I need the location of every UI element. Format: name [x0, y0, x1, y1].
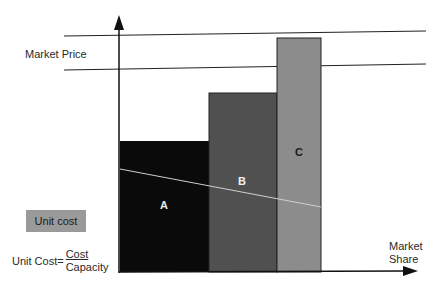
x-axis-label-line1: Market: [389, 240, 423, 253]
bar-a-label: A: [160, 199, 168, 211]
y-axis-arrow-icon: [114, 15, 124, 30]
bar-c-label: C: [295, 146, 303, 158]
unit-cost-formula: Unit Cost= Cost Capacity: [12, 248, 108, 274]
formula-fraction: Cost Capacity: [66, 248, 109, 274]
market-price-label: Market Price: [25, 48, 87, 60]
unit-cost-legend-box: Unit cost: [26, 210, 86, 232]
bar-b-label: B: [238, 175, 246, 187]
formula-denominator: Capacity: [66, 261, 109, 274]
unit-cost-legend-label: Unit cost: [35, 215, 78, 227]
diagram-canvas: [0, 0, 436, 290]
x-axis-arrow-icon: [403, 266, 418, 276]
x-axis: [119, 271, 404, 272]
formula-prefix: Unit Cost=: [12, 255, 64, 267]
x-axis-label: Market Share: [389, 240, 423, 266]
formula-numerator: Cost: [66, 248, 89, 261]
x-axis-label-line2: Share: [389, 253, 423, 266]
